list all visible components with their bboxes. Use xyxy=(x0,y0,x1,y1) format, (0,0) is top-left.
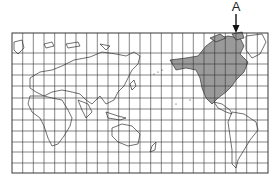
japan xyxy=(130,80,136,90)
down-arrow-icon xyxy=(233,14,240,33)
annotation-label-a: A xyxy=(229,0,243,14)
australia xyxy=(112,124,140,146)
eurasia xyxy=(30,52,140,104)
indonesia xyxy=(106,112,126,120)
arctic-island xyxy=(44,42,54,48)
central-america xyxy=(214,102,232,114)
south-america xyxy=(228,112,258,168)
world-map: A xyxy=(0,0,275,180)
arctic-island-3 xyxy=(100,44,110,50)
arctic-island-2 xyxy=(66,42,80,48)
map-svg xyxy=(0,0,275,180)
greenland xyxy=(246,34,266,58)
